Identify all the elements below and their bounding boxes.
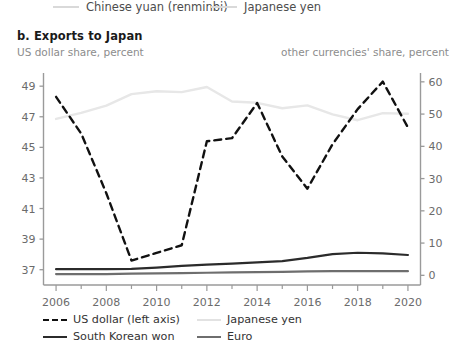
svg-text:47: 47 — [22, 111, 36, 124]
top-legend-item-chinese-yuan: Chinese yuan (renminbi) — [53, 0, 228, 14]
left-axis-ticklabels: 37394143454749 — [22, 80, 36, 277]
svg-text:2016: 2016 — [293, 296, 321, 308]
line-swatch-icon — [43, 336, 67, 338]
right-axis-ticklabels: 0102030405060 — [429, 76, 443, 282]
line-chart: 37394143454749 0102030405060 20062008201… — [0, 58, 461, 308]
dashed-line-swatch-icon — [43, 319, 67, 321]
legend-item-euro: Euro — [197, 330, 252, 343]
right-axis-title: other currencies' share, percent — [281, 46, 449, 58]
svg-text:41: 41 — [22, 203, 36, 216]
svg-text:2010: 2010 — [143, 296, 171, 308]
legend-item-south-korean-won: South Korean won — [43, 330, 175, 343]
svg-text:2006: 2006 — [42, 296, 70, 308]
legend-label: South Korean won — [73, 330, 175, 343]
top-legend-label: Chinese yuan (renminbi) — [86, 0, 228, 14]
legend-label: Japanese yen — [227, 313, 302, 326]
svg-text:43: 43 — [22, 172, 36, 185]
chart-axes — [40, 73, 425, 291]
svg-text:60: 60 — [429, 76, 443, 89]
svg-text:49: 49 — [22, 80, 36, 93]
svg-text:20: 20 — [429, 205, 443, 218]
svg-text:39: 39 — [22, 233, 36, 246]
svg-text:0: 0 — [429, 269, 436, 282]
top-legend: Chinese yuan (renminbi) Japanese yen — [0, 0, 461, 22]
top-legend-item-japanese-yen: Japanese yen — [211, 0, 321, 14]
top-legend-label: Japanese yen — [244, 0, 321, 14]
line-swatch-icon — [53, 6, 79, 8]
legend-item-japanese-yen: Japanese yen — [197, 313, 302, 326]
svg-text:2008: 2008 — [92, 296, 120, 308]
svg-text:2018: 2018 — [344, 296, 372, 308]
chart-series-layer — [56, 82, 408, 274]
svg-text:50: 50 — [429, 108, 443, 121]
svg-text:37: 37 — [22, 264, 36, 277]
svg-text:2014: 2014 — [243, 296, 271, 308]
svg-text:2020: 2020 — [394, 296, 422, 308]
svg-text:45: 45 — [22, 141, 36, 154]
svg-text:40: 40 — [429, 140, 443, 153]
x-axis-ticklabels: 20062008201020122014201620182020 — [42, 296, 422, 308]
svg-text:30: 30 — [429, 173, 443, 186]
page-title: b. Exports to Japan — [17, 29, 143, 43]
line-swatch-icon — [197, 336, 221, 338]
legend-label: Euro — [227, 330, 252, 343]
line-swatch-icon — [197, 319, 221, 321]
legend-item-us-dollar: US dollar (left axis) — [43, 313, 180, 326]
legend-label: US dollar (left axis) — [73, 313, 180, 326]
line-swatch-icon — [211, 6, 237, 8]
svg-text:2012: 2012 — [193, 296, 221, 308]
svg-text:10: 10 — [429, 237, 443, 250]
left-axis-title: US dollar share, percent — [17, 46, 144, 58]
